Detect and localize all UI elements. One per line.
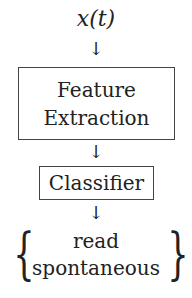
input-signal-label: x(t) [0, 6, 192, 31]
class-label-spontaneous: spontaneous [0, 255, 192, 282]
block-label-line: Extraction [44, 104, 150, 132]
block-label-line: Feature [57, 76, 136, 104]
arrow-down-icon: ↓ [87, 143, 105, 161]
arrow-down-icon: ↓ [87, 204, 105, 222]
arrow-down-icon: ↓ [87, 40, 105, 58]
right-brace: } [167, 226, 188, 282]
feature-extraction-block: Feature Extraction [18, 67, 175, 140]
classifier-block: Classifier [39, 166, 154, 200]
output-classes: read spontaneous [0, 228, 192, 282]
block-label-line: Classifier [49, 169, 144, 197]
class-label-read: read [0, 228, 192, 255]
